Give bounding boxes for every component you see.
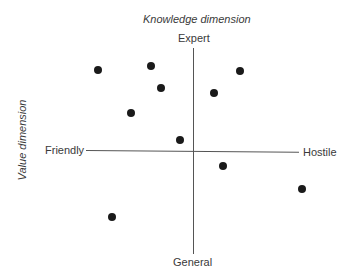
data-point: [219, 162, 227, 170]
hostile-label: Hostile: [303, 146, 337, 158]
knowledge-dimension-title: Knowledge dimension: [143, 13, 251, 25]
value-dimension-title: Value dimension: [16, 100, 28, 181]
expert-label: Expert: [178, 32, 210, 44]
data-point: [147, 62, 155, 70]
data-point: [127, 109, 135, 117]
data-point: [236, 67, 244, 75]
data-point: [108, 213, 116, 221]
data-point: [176, 136, 184, 144]
quadrant-diagram: Knowledge dimension Value dimension Expe…: [0, 0, 353, 279]
data-point: [210, 89, 218, 97]
data-point: [94, 66, 102, 74]
general-label: General: [173, 256, 212, 268]
friendly-label: Friendly: [45, 144, 84, 156]
data-point: [298, 185, 306, 193]
data-point: [157, 84, 165, 92]
